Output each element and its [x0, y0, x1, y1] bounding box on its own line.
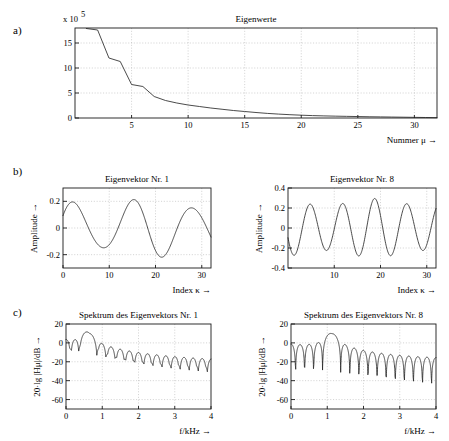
x-tick-label: 2 [136, 411, 140, 421]
chart-eigenvector-8: 102030-0.4-0.200.20.4Eigenvektor Nr. 8In… [254, 174, 436, 295]
y-tick-label: 20 [280, 319, 289, 329]
y-tick-label: 0 [284, 338, 288, 348]
y-tick-label: 0 [56, 223, 60, 233]
x-axis-label: f/kHz → [404, 426, 436, 436]
x-tick-label: 30 [410, 120, 419, 130]
chart-spectrum-8: 01234-60-40-20020Spektrum des Eigenvekto… [257, 310, 439, 436]
x-tick-label: 4 [209, 411, 214, 421]
x-axis-label: Nummer μ → [387, 135, 437, 145]
plot-frame [63, 188, 211, 268]
x-tick-label: 0 [289, 411, 293, 421]
x-tick-label: 5 [129, 120, 133, 130]
y-tick-label: -0.4 [272, 263, 286, 273]
y-axis-multiplier: x 10 [63, 14, 78, 24]
x-tick-label: 3 [398, 411, 402, 421]
x-tick-label: 20 [297, 120, 306, 130]
x-tick-label: 30 [423, 270, 432, 280]
y-tick-label: 0.2 [49, 196, 60, 206]
x-tick-label: 2 [361, 411, 365, 421]
x-tick-label: 3 [173, 411, 177, 421]
y-tick-label: 10 [64, 63, 73, 73]
x-tick-label: 1 [325, 411, 329, 421]
figure-root: a) b) c) 51015202530051015EigenwerteNumm… [0, 0, 449, 441]
chart-eigenvalues: 51015202530051015EigenwerteNummer μ →x 1… [63, 9, 437, 145]
y-axis-multiplier-exponent: 5 [81, 9, 85, 19]
x-axis-label: Index κ → [172, 285, 211, 295]
x-tick-label: 10 [105, 270, 114, 280]
y-tick-label: -60 [52, 395, 63, 405]
data-curve [86, 29, 437, 118]
x-tick-label: 20 [151, 270, 160, 280]
x-tick-label: 25 [354, 120, 363, 130]
y-tick-label: 5 [68, 88, 72, 98]
panel-label-b: b) [13, 165, 23, 178]
y-tick-label: 0.2 [274, 203, 285, 213]
x-tick-label: 15 [240, 120, 249, 130]
panel-label-a: a) [13, 24, 22, 37]
y-axis-label: Amplitude → [29, 203, 39, 253]
plot-frame [75, 28, 437, 118]
plot-title: Eigenvektor Nr. 1 [105, 174, 169, 184]
x-tick-label: 0 [64, 411, 68, 421]
y-tick-label: -40 [52, 376, 63, 386]
plot-title: Eigenvektor Nr. 8 [330, 174, 395, 184]
x-axis-label: f/kHz → [179, 426, 211, 436]
y-tick-label: -60 [277, 395, 288, 405]
x-axis-label: Index κ → [397, 285, 436, 295]
y-tick-label: -20 [52, 357, 63, 367]
x-tick-label: 4 [434, 411, 439, 421]
plot-frame [288, 188, 436, 268]
data-curve [288, 199, 436, 256]
y-tick-label: 15 [64, 38, 73, 48]
y-axis-label: 20·lg |Hμ|/dB → [257, 336, 267, 396]
x-tick-label: 10 [184, 120, 193, 130]
y-axis-label: 20·lg |Hμ|/dB → [32, 336, 42, 396]
y-tick-label: 0 [59, 338, 63, 348]
y-tick-label: 0.4 [274, 183, 285, 193]
x-tick-label: 20 [376, 270, 385, 280]
y-tick-label: -20 [277, 357, 288, 367]
y-tick-label: -0.2 [47, 250, 60, 260]
y-axis-label: Amplitude → [254, 203, 264, 253]
plot-title: Spektrum des Eigenvektors Nr. 8 [304, 310, 424, 320]
plot-title: Eigenwerte [236, 14, 277, 24]
chart-spectrum-1: 01234-60-40-20020Spektrum des Eigenvekto… [32, 310, 214, 436]
y-tick-label: 0 [281, 223, 285, 233]
x-tick-label: 1 [100, 411, 104, 421]
chart-eigenvector-1: 0102030-0.200.2Eigenvektor Nr. 1Index κ … [29, 174, 211, 295]
data-curve [63, 200, 211, 258]
y-tick-label: -0.2 [272, 243, 285, 253]
x-tick-label: 30 [198, 270, 207, 280]
x-tick-label: 0 [61, 270, 65, 280]
panel-label-c: c) [13, 306, 22, 319]
x-tick-label: 10 [330, 270, 339, 280]
data-curve [66, 332, 211, 372]
plot-title: Spektrum des Eigenvektors Nr. 1 [79, 310, 198, 320]
y-tick-label: 20 [55, 319, 64, 329]
y-tick-label: -40 [277, 376, 288, 386]
y-tick-label: 0 [68, 113, 72, 123]
